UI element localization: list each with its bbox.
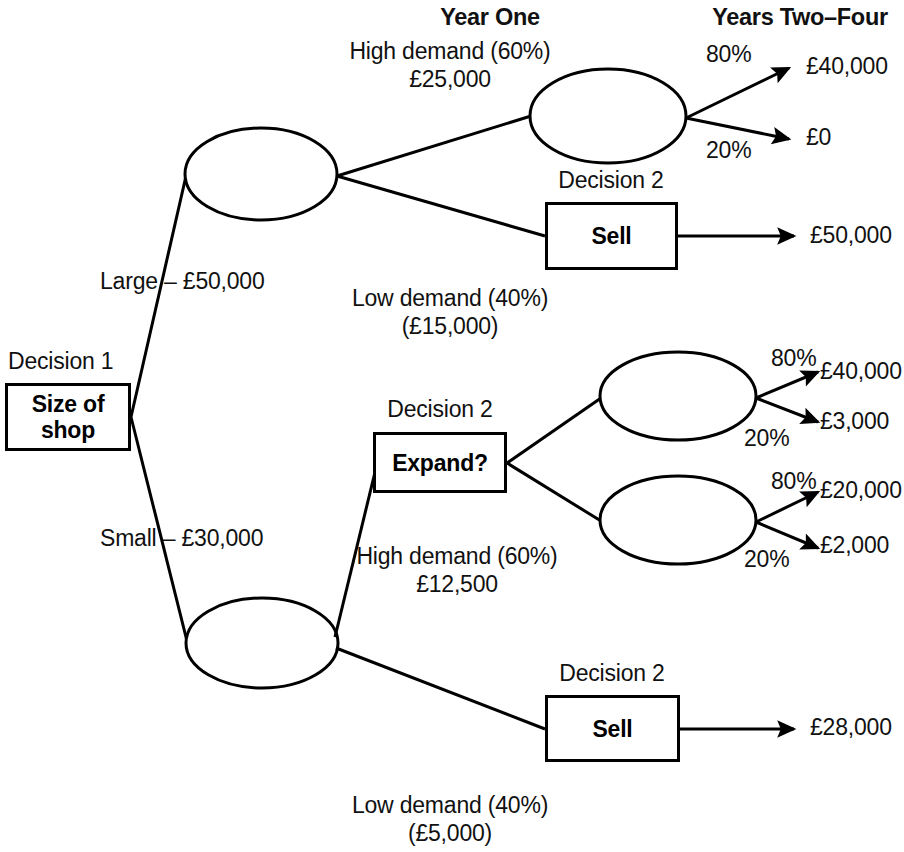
chance-node-expand-no	[600, 476, 756, 564]
decision2-expand-box[interactable]: Expand?	[373, 432, 507, 493]
decision2-expand-label: Expand?	[392, 450, 488, 476]
payoff-small-sell: £28,000	[810, 714, 892, 741]
header-year-one: Year One	[440, 4, 540, 31]
label-small-low-value: (£5,000)	[408, 820, 492, 847]
decision1-caption: Decision 1	[8, 348, 113, 375]
branch-label-large: Large – £50,000	[100, 268, 265, 295]
edge-expand-yes-20	[756, 398, 818, 422]
edge-expand-yes-80	[756, 372, 818, 398]
payoff-expand-no-20: £2,000	[820, 532, 889, 559]
edge-large-high-demand	[337, 116, 531, 176]
payoff-large-high-20: £0	[806, 124, 831, 151]
chance-node-large	[185, 128, 337, 220]
branch-label-small: Small – £30,000	[100, 525, 263, 552]
decision2-sell-bottom-caption: Decision 2	[559, 660, 664, 687]
decision2-sell-bottom-box[interactable]: Sell	[545, 695, 680, 762]
label-large-high-value: £25,000	[409, 66, 491, 93]
chance-node-large-high	[530, 69, 686, 163]
edge-small-low-demand	[336, 648, 545, 729]
edge-large-high-80	[686, 68, 789, 118]
edge-large	[131, 176, 186, 417]
decision2-sell-top-label: Sell	[591, 223, 631, 249]
edge-expand-yes	[507, 398, 601, 463]
prob-expand-yes-80: 80%	[771, 345, 816, 372]
edge-expand-no	[507, 463, 601, 521]
label-small-low-demand: Low demand (40%)	[352, 792, 548, 819]
edge-large-low-demand	[337, 176, 545, 236]
decision2-expand-caption: Decision 2	[387, 396, 492, 423]
chance-node-expand-yes	[600, 352, 756, 440]
label-large-low-value: (£15,000)	[402, 313, 499, 340]
decision2-sell-top-box[interactable]: Sell	[545, 202, 678, 270]
label-large-low-demand: Low demand (40%)	[352, 285, 548, 312]
payoff-large-sell: £50,000	[810, 222, 892, 249]
prob-large-high-80: 80%	[706, 41, 751, 68]
chance-node-small	[186, 598, 338, 688]
decision1-label-line1: Size of	[32, 391, 105, 417]
payoff-expand-no-80: £20,000	[820, 477, 902, 504]
payoff-large-high-80: £40,000	[806, 53, 888, 80]
edge-expand-no-80	[756, 492, 818, 522]
label-small-high-value: £12,500	[416, 571, 498, 598]
payoff-expand-yes-20: £3,000	[820, 408, 889, 435]
prob-expand-yes-20: 20%	[744, 425, 789, 452]
decision2-sell-top-caption: Decision 2	[558, 167, 663, 194]
edge-large-high-20	[686, 118, 789, 139]
edge-expand-no-20	[756, 522, 818, 548]
header-years-two-four: Years Two–Four	[712, 4, 888, 31]
payoff-expand-yes-80: £40,000	[820, 358, 902, 385]
prob-large-high-20: 20%	[706, 137, 751, 164]
label-small-high-demand: High demand (60%)	[356, 543, 557, 570]
prob-expand-no-80: 80%	[771, 468, 816, 495]
decision1-label-line2: shop	[41, 417, 95, 443]
prob-expand-no-20: 20%	[744, 546, 789, 573]
label-large-high-demand: High demand (60%)	[349, 38, 550, 65]
decision2-sell-bottom-label: Sell	[592, 716, 632, 742]
decision1-box[interactable]: Size of shop	[5, 383, 131, 451]
